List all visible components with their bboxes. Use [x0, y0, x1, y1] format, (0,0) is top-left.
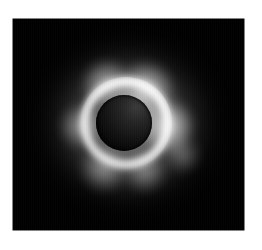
corona-streamers: [47, 43, 205, 203]
corona-inner-ring: [80, 77, 172, 169]
lunar-disk: [96, 95, 152, 151]
plate-vignette: [13, 19, 244, 230]
page-root: [0, 0, 262, 250]
corona-bright-limb: [80, 77, 172, 169]
corona-outer-halo: [27, 27, 223, 219]
film-grain-overlay: [13, 19, 244, 230]
eclipse-photograph[interactable]: [13, 19, 244, 230]
photo-caption: [13, 232, 244, 248]
